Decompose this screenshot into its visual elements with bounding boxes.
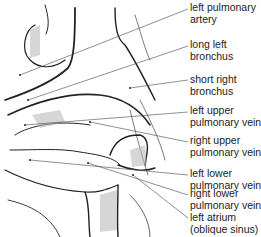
label-line: long left — [190, 38, 227, 50]
label-line: pulmonary vein — [190, 116, 261, 128]
label-right-upper-pulmonary-vein: right upperpulmonary vein — [190, 135, 261, 158]
label-line: short right — [190, 73, 237, 85]
label-line: (oblique sinus) — [190, 223, 258, 235]
label-right-lower-pulmonary-vein: right lowerpulmonary vein — [190, 188, 261, 211]
label-left-pulmonary-artery: left pulmonaryartery — [190, 2, 256, 25]
label-line: left upper — [190, 104, 234, 116]
label-line: left lower — [190, 167, 232, 179]
label-line: bronchus — [190, 50, 233, 62]
label-left-upper-pulmonary-vein: left upperpulmonary vein — [190, 105, 261, 128]
label-long-left-bronchus: long leftbronchus — [190, 39, 233, 62]
label-line: right lower — [190, 187, 238, 199]
label-line: right upper — [190, 134, 240, 146]
label-line: left atrium — [190, 211, 236, 223]
label-left-atrium: left atrium(oblique sinus) — [190, 212, 258, 235]
label-line: left pulmonary — [190, 1, 256, 13]
label-line: pulmonary vein — [190, 146, 261, 158]
label-line: artery — [190, 13, 217, 25]
label-short-right-bronchus: short rightbronchus — [190, 74, 237, 97]
label-line: bronchus — [190, 85, 233, 97]
label-line: pulmonary vein — [190, 199, 261, 211]
